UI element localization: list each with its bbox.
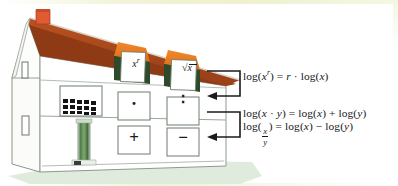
multiplication-dot: · (294, 70, 298, 82)
paren-close: ) (269, 120, 273, 132)
fraction-numerator: x (262, 127, 268, 136)
formula-product-log: log (243, 107, 258, 119)
fraction-x-over-y: xy (262, 127, 268, 147)
formula-quotient-log: log (243, 120, 258, 132)
plus-sign: + (329, 107, 336, 119)
fraction-denominator: y (262, 138, 268, 147)
side-window-lower (22, 116, 29, 135)
window-minus-label: − (171, 129, 195, 146)
paren-close: ) (282, 107, 286, 119)
window-divide-label: ∶ (171, 92, 195, 108)
formula-quotient-rhs-log-1: log (285, 120, 300, 132)
figure-canvas: xr √x · ∶ + − log(xr) = r · log(x) log(x… (0, 0, 398, 186)
multiplication-dot: · (270, 107, 274, 119)
formula-product-rhs-log-1: log (298, 107, 313, 119)
formula-quotient-rhs-log-2: log (325, 120, 340, 132)
formula-power-log: log (243, 70, 258, 82)
paren-close: ) (309, 120, 313, 132)
formula-quotient: log(xy) = log(x) − log(y) (243, 120, 395, 147)
paren-open: ( (258, 120, 262, 132)
formula-power: log(xr) = r · log(x) (243, 68, 395, 82)
window-multiply-label: · (122, 95, 146, 113)
formula-product-operand-a: x (262, 107, 267, 119)
window-plus-label: + (122, 129, 146, 146)
chimney (36, 9, 50, 24)
paren-close: ) (270, 70, 274, 82)
paren-close: ) (325, 70, 329, 82)
equals-sign: = (289, 107, 296, 119)
side-window-upper (22, 62, 28, 78)
paren-close: ) (362, 107, 366, 119)
minus-sign: − (316, 120, 323, 132)
window-grid (60, 86, 102, 116)
formula-power-coefficient: r (286, 70, 291, 82)
formula-power-rhs-log: log (301, 70, 316, 82)
paren-close: ) (322, 107, 326, 119)
equals-sign: = (276, 120, 283, 132)
paren-close: ) (349, 120, 353, 132)
window-root-label: √x (174, 63, 200, 73)
window-power-label: xr (124, 57, 148, 69)
equals-sign: = (277, 70, 284, 82)
formula-product: log(x · y) = log(x) + log(y) (243, 107, 395, 119)
formula-list: log(xr) = r · log(x) log(x · y) = log(x)… (243, 68, 395, 147)
formula-product-rhs-log-2: log (339, 107, 354, 119)
